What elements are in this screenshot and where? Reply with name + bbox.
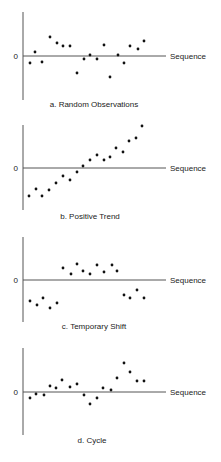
data-point bbox=[62, 45, 65, 48]
zero-tick-label: 0 bbox=[14, 164, 19, 173]
figure-canvas: 0Sequencea. Random Observations0Sequence… bbox=[0, 0, 221, 462]
data-point bbox=[76, 72, 79, 75]
data-point bbox=[55, 182, 58, 185]
data-point bbox=[129, 297, 132, 300]
x-axis-label: Sequence bbox=[170, 388, 207, 397]
data-point bbox=[35, 188, 38, 191]
data-point bbox=[82, 270, 85, 273]
data-point bbox=[129, 45, 132, 48]
data-point bbox=[136, 289, 139, 292]
data-point bbox=[76, 171, 79, 174]
data-point bbox=[89, 403, 92, 406]
x-axis-label: Sequence bbox=[170, 164, 207, 173]
data-point bbox=[135, 137, 138, 140]
data-point bbox=[34, 51, 37, 54]
zero-tick-label: 0 bbox=[14, 276, 19, 285]
data-point bbox=[41, 195, 44, 198]
data-point bbox=[49, 36, 52, 39]
data-point bbox=[29, 62, 32, 65]
data-point bbox=[115, 147, 118, 150]
zero-tick-label: 0 bbox=[14, 388, 19, 397]
data-point bbox=[116, 270, 119, 273]
data-point bbox=[83, 394, 86, 397]
data-point bbox=[96, 264, 99, 267]
data-point bbox=[89, 159, 92, 162]
data-point bbox=[41, 61, 44, 64]
data-point bbox=[69, 179, 72, 182]
data-point bbox=[96, 154, 99, 157]
data-point bbox=[48, 189, 51, 192]
zero-tick-label: 0 bbox=[14, 52, 19, 61]
data-point bbox=[29, 300, 32, 303]
panel-caption: c. Temporary Shift bbox=[62, 322, 127, 331]
data-point bbox=[116, 377, 119, 380]
data-point bbox=[136, 380, 139, 383]
data-point bbox=[56, 302, 59, 305]
x-axis-label: Sequence bbox=[170, 52, 207, 61]
data-point bbox=[122, 151, 125, 154]
data-point bbox=[28, 195, 31, 198]
data-point bbox=[129, 371, 132, 374]
data-point bbox=[55, 387, 58, 390]
data-point bbox=[143, 297, 146, 300]
data-point bbox=[69, 386, 72, 389]
data-point bbox=[49, 385, 52, 388]
data-point bbox=[96, 58, 99, 61]
data-point bbox=[89, 54, 92, 57]
data-point bbox=[96, 397, 99, 400]
data-point bbox=[49, 307, 52, 310]
data-point bbox=[109, 76, 112, 79]
data-point bbox=[109, 156, 112, 159]
data-point bbox=[82, 165, 85, 168]
data-point bbox=[76, 263, 79, 266]
data-point bbox=[62, 175, 65, 178]
data-point bbox=[117, 54, 120, 57]
data-point bbox=[143, 40, 146, 43]
panel-caption: b. Positive Trend bbox=[60, 212, 120, 221]
data-point bbox=[103, 271, 106, 274]
data-point bbox=[143, 380, 146, 383]
data-point bbox=[123, 294, 126, 297]
data-point bbox=[103, 44, 106, 47]
data-point bbox=[137, 48, 140, 51]
data-point bbox=[70, 273, 73, 276]
data-point bbox=[29, 397, 32, 400]
data-point bbox=[128, 140, 131, 143]
data-point bbox=[43, 394, 46, 397]
panel-a: 0Sequencea. Random Observations bbox=[14, 12, 207, 109]
data-point bbox=[69, 45, 72, 48]
panel-c: 0Sequencec. Temporary Shift bbox=[14, 237, 207, 331]
data-point bbox=[89, 273, 92, 276]
x-axis-label: Sequence bbox=[170, 276, 207, 285]
data-point bbox=[103, 159, 106, 162]
panel-b: 0Sequenceb. Positive Trend bbox=[14, 125, 207, 221]
data-point bbox=[111, 264, 114, 267]
data-point bbox=[62, 267, 65, 270]
data-point bbox=[102, 387, 105, 390]
panel-caption: a. Random Observations bbox=[50, 100, 139, 109]
data-point bbox=[76, 383, 79, 386]
data-point bbox=[123, 362, 126, 365]
data-point bbox=[141, 125, 144, 128]
data-point bbox=[110, 389, 113, 392]
data-point bbox=[36, 304, 39, 307]
data-point bbox=[61, 379, 64, 382]
data-point bbox=[35, 393, 38, 396]
data-point bbox=[42, 297, 45, 300]
data-point bbox=[83, 58, 86, 61]
panel-caption: d. Cycle bbox=[78, 436, 107, 445]
data-point bbox=[123, 62, 126, 65]
data-point bbox=[56, 42, 59, 45]
panel-d: 0Sequenced. Cycle bbox=[14, 348, 207, 445]
